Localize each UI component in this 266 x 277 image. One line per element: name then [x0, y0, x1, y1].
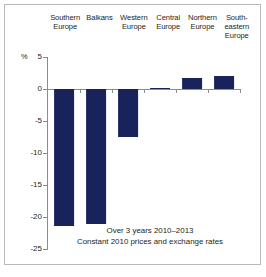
bar: [118, 89, 138, 137]
bar-slot: [48, 57, 80, 249]
bar-slot: [176, 57, 208, 249]
plot-area: [48, 57, 240, 249]
caption-line-basis: Constant 2010 prices and exchange rates: [50, 236, 250, 247]
bar-slot: [112, 57, 144, 249]
category-label-northern-europe: Northern Europe: [185, 13, 219, 31]
bar: [150, 88, 170, 89]
bar-series: [48, 57, 240, 249]
category-label-western-europe: Western Europe: [117, 13, 151, 31]
y-axis-tick-label: -25: [2, 245, 42, 253]
category-labels: Southern Europe Balkans Western Europe C…: [48, 13, 254, 59]
y-axis-tick-label: 5: [2, 53, 42, 61]
y-axis-tick: [43, 249, 48, 250]
caption-line-period: Over 3 years 2010–2013: [50, 225, 250, 236]
bar: [214, 76, 234, 89]
chart-caption: Over 3 years 2010–2013 Constant 2010 pri…: [50, 225, 250, 247]
chart-figure: Southern Europe Balkans Western Europe C…: [0, 0, 266, 277]
category-label-southern-europe: Southern Europe: [48, 13, 82, 31]
bar-slot: [80, 57, 112, 249]
category-label-central-europe: Central Europe: [151, 13, 185, 31]
y-axis-tick-label: -15: [2, 181, 42, 189]
y-axis-tick-label: 0: [2, 85, 42, 93]
bar-slot: [144, 57, 176, 249]
bar-slot: [208, 57, 240, 249]
bar: [86, 89, 106, 224]
bar: [182, 78, 202, 89]
x-axis-tick: [240, 89, 241, 93]
y-axis-tick-label: -20: [2, 213, 42, 221]
y-axis-tick-label: -5: [2, 117, 42, 125]
category-label-balkans: Balkans: [82, 13, 116, 22]
category-label-south-eastern-europe: South- eastern Europe: [220, 13, 254, 41]
bar: [54, 89, 74, 226]
y-axis-tick-label: -10: [2, 149, 42, 157]
